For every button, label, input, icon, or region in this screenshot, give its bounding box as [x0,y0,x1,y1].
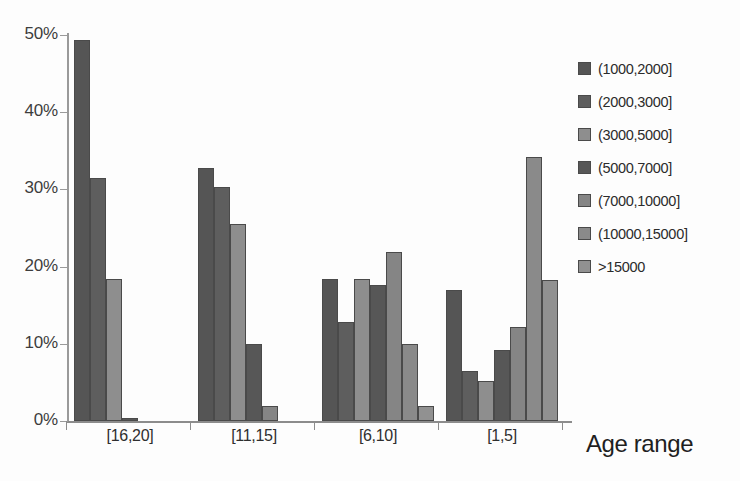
bar[interactable] [418,406,434,421]
legend-item-label: (1000,2000] [598,61,672,77]
legend-swatch-icon [578,62,591,75]
x-axis-tick [190,421,191,430]
bar[interactable] [214,187,230,421]
plot-area: [16,20][11,15][6,10][1,5] [68,35,560,421]
legend-item-label: (7000,10000] [598,193,680,209]
bar[interactable] [542,280,558,421]
y-axis-tick [60,344,68,345]
y-axis-labels: 0%10%20%30%40%50% [0,0,58,481]
y-axis-tick-label: 0% [6,410,58,430]
legend-swatch-icon [578,161,591,174]
bar-group-bars [446,35,558,421]
legend-item[interactable]: (2000,3000] [578,85,738,118]
y-axis-tick-label: 50% [6,24,58,44]
bar[interactable] [446,290,462,421]
x-axis-tick [562,421,563,430]
bar[interactable] [494,350,510,421]
y-axis-tick-label: 20% [6,256,58,276]
legend-item-label: (10000,15000] [598,226,688,242]
x-axis-category-label: [1,5] [426,427,578,445]
bar-group-bars [74,35,186,421]
y-axis-tick [60,189,68,190]
bar[interactable] [402,344,418,421]
y-axis-tick-label: 10% [6,333,58,353]
bar[interactable] [526,157,542,421]
legend-swatch-icon [578,194,591,207]
legend-swatch-icon [578,95,591,108]
legend-item-label: (3000,5000] [598,127,672,143]
bar[interactable] [478,381,494,421]
bar[interactable] [90,178,106,421]
bar[interactable] [122,418,138,421]
bar[interactable] [510,327,526,421]
x-axis-tick [314,421,315,430]
legend-item[interactable]: (5000,7000] [578,151,738,184]
x-axis-tick [438,421,439,430]
bar[interactable] [386,252,402,421]
x-axis-tick [66,421,67,430]
legend: (1000,2000](2000,3000](3000,5000](5000,7… [578,52,738,283]
y-axis-tick [60,267,68,268]
legend-item-label: (2000,3000] [598,94,672,110]
bar[interactable] [198,168,214,421]
bar[interactable] [370,285,386,421]
legend-swatch-icon [578,260,591,273]
bar[interactable] [462,371,478,421]
bar[interactable] [354,279,370,421]
legend-swatch-icon [578,227,591,240]
bar[interactable] [230,224,246,421]
legend-swatch-icon [578,128,591,141]
y-axis-tick-label: 30% [6,178,58,198]
y-axis-tick-label: 40% [6,101,58,121]
x-axis-title: Age range [586,430,693,458]
y-axis-tick [60,35,68,36]
bar[interactable] [246,344,262,421]
bar[interactable] [74,40,90,421]
bar[interactable] [262,406,278,421]
legend-item[interactable]: (10000,15000] [578,217,738,250]
legend-item[interactable]: (3000,5000] [578,118,738,151]
bar[interactable] [338,322,354,421]
bar[interactable] [322,279,338,421]
legend-item-label: >15000 [598,259,645,275]
bar-group-bars [198,35,310,421]
chart-page: 0%10%20%30%40%50% [16,20][11,15][6,10][1… [0,0,740,481]
x-axis-line [66,421,572,423]
bar[interactable] [106,279,122,421]
y-axis-tick [60,112,68,113]
legend-item[interactable]: >15000 [578,250,738,283]
legend-item[interactable]: (1000,2000] [578,52,738,85]
bar-group-bars [322,35,434,421]
legend-item-label: (5000,7000] [598,160,672,176]
legend-item[interactable]: (7000,10000] [578,184,738,217]
